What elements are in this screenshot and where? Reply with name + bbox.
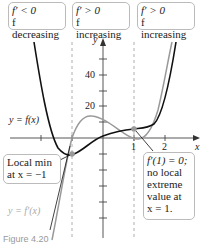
x-tick-2: 2 — [162, 141, 167, 152]
x-tick-1: 1 — [131, 141, 136, 152]
y-axis-label: y — [93, 34, 97, 45]
figure-caption: Figure 4.20 — [3, 234, 49, 244]
annotation-line: at x = −1 — [7, 168, 57, 180]
x-axis-label: x — [195, 141, 199, 152]
f-curve-label: y = f(x) — [9, 114, 39, 125]
annotation-line: value at — [147, 190, 191, 202]
local-min-annotation: Local min at x = −1 — [3, 154, 61, 184]
critical-point-annotation: f′(1) = 0; no local extreme value at x =… — [143, 152, 195, 220]
annotation-line: x = 1. — [147, 202, 191, 214]
y-tick-20: 20 — [85, 100, 95, 111]
annotation-line: f′(1) = 0; — [147, 154, 191, 166]
annotation-line: no local — [147, 166, 191, 178]
fprime-curve-label: y = f′(x) — [8, 205, 40, 216]
annotation-line: extreme — [147, 178, 191, 190]
annotation-line: Local min — [7, 156, 57, 168]
y-tick-40: 40 — [85, 69, 95, 80]
